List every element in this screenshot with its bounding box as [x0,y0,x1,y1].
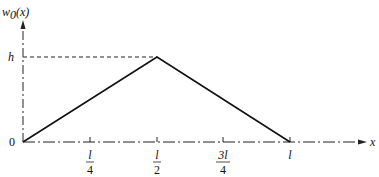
tick-label-l4-num: l [88,148,92,162]
tick-label-l4-den: 4 [87,163,93,177]
y-axis-label: w0(x) [2,5,29,22]
h-label: h [8,50,14,64]
triangle-diagram: w0(x) h 0 x l 4 l 2 3l 4 l [0,0,379,177]
triangle-shape [23,57,290,142]
x-axis-arrow-icon [358,140,367,145]
tick-label-l2-den: 2 [154,163,160,177]
x-axis-label: x [369,135,376,149]
origin-label: 0 [9,135,15,149]
tick-label-l2-num: l [155,148,159,162]
tick-label-l: l [288,148,292,162]
tick-label-3l4-num: 3l [217,148,228,162]
tick-label-3l4-den: 4 [220,163,226,177]
y-axis-arrow-icon [21,20,26,29]
